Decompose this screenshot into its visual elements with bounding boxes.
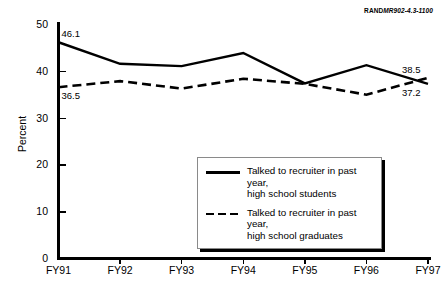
data-label-46-1: 46.1 [62, 29, 81, 39]
legend-graduates-line2: high school graduates [247, 230, 343, 241]
legend-swatch-dashed-line [206, 207, 240, 220]
legend-label-students: Talked to recruiter in past year, high s… [247, 165, 375, 200]
legend-entry-students: Talked to recruiter in past year, high s… [206, 165, 375, 200]
legend-students-line1: Talked to recruiter in past year, [247, 165, 356, 188]
legend-label-graduates: Talked to recruiter in past year, high s… [247, 207, 375, 242]
series-line-graduates [59, 78, 429, 95]
legend-graduates-line1: Talked to recruiter in past year, [247, 207, 356, 230]
legend-swatch-solid-line [206, 165, 240, 178]
chart-legend: Talked to recruiter in past year, high s… [197, 157, 382, 249]
legend-students-line2: high school students [247, 188, 336, 199]
legend-entry-graduates: Talked to recruiter in past year, high s… [206, 207, 375, 242]
figure-container: RANDMR902-4.3-1100 Percent 01020304050 F… [0, 0, 441, 286]
data-label-36-5: 36.5 [62, 91, 81, 101]
data-label-37-2: 37.2 [402, 88, 421, 98]
data-label-38-5: 38.5 [402, 65, 421, 75]
